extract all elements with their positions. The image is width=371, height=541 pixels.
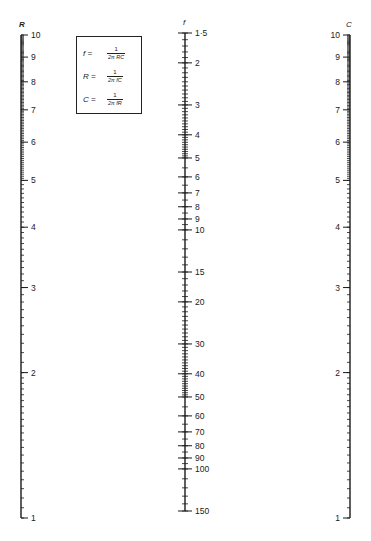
formula-c: C = 1 2π fR [83, 92, 123, 107]
f-scale-label: 80 [195, 441, 205, 451]
f-scale-label: 90 [195, 453, 205, 463]
c-scale-title: C [346, 20, 352, 29]
numerator: 1 [114, 46, 117, 53]
r-scale-label: 9 [31, 52, 36, 62]
f-scale-label: 100 [195, 464, 209, 474]
r-scale-title: R [19, 20, 25, 29]
f-scale-title: f [183, 18, 186, 27]
formula-r: R = 1 2π fC [83, 69, 123, 84]
f-scale-label: 70 [195, 427, 205, 437]
c-scale-label: 10 [331, 30, 341, 40]
f-scale-label: 3 [195, 100, 200, 110]
c-scale-label: 6 [335, 137, 340, 147]
c-scale-label: 2 [335, 368, 340, 378]
r-scale: R12345678910 [19, 20, 41, 523]
f-scale-label: 8 [195, 202, 200, 212]
c-scale-label: 3 [335, 283, 340, 293]
r-scale-label: 5 [31, 175, 36, 185]
f-scale-label: 4 [195, 130, 200, 140]
c-scale-label: 8 [335, 77, 340, 87]
fraction: 1 2π fC [107, 69, 123, 84]
formula-f: f = 1 2π RC [83, 46, 125, 61]
denominator: 2π fC [107, 76, 123, 84]
formula-lhs: C = [83, 95, 103, 104]
denominator: 2π fR [107, 99, 123, 107]
formula-box: f = 1 2π RC R = 1 2π fC C = 1 2π fR [76, 36, 142, 114]
fraction: 1 2π fR [107, 92, 123, 107]
f-scale-label: 30 [195, 339, 205, 349]
r-scale-label: 3 [31, 283, 36, 293]
denominator: 2π RC [107, 53, 125, 61]
f-scale-label: 50 [195, 392, 205, 402]
fraction: 1 2π RC [107, 46, 125, 61]
c-scale: C12345678910 [331, 20, 352, 523]
numerator: 1 [113, 92, 116, 99]
f-scale-label: 10 [195, 225, 205, 235]
f-scale-label: 150 [195, 506, 209, 516]
f-scale-label: 40 [195, 369, 205, 379]
r-scale-label: 10 [31, 30, 41, 40]
r-scale-label: 4 [31, 222, 36, 232]
f-scale-label: 5 [195, 153, 200, 163]
c-scale-label: 9 [335, 52, 340, 62]
c-scale-label: 1 [335, 513, 340, 523]
r-scale-label: 2 [31, 368, 36, 378]
f-scale-label: 6 [195, 172, 200, 182]
c-scale-label: 4 [335, 222, 340, 232]
r-scale-label: 8 [31, 77, 36, 87]
f-scale-label: 2 [195, 58, 200, 68]
nomogram-canvas: R12345678910 f1·523456789101520304050607… [0, 0, 371, 541]
r-scale-label: 7 [31, 105, 36, 115]
f-scale-label: 9 [195, 214, 200, 224]
formula-lhs: R = [83, 72, 103, 81]
f-scale-label: 1·5 [195, 28, 208, 38]
numerator: 1 [113, 69, 116, 76]
r-scale-label: 1 [31, 513, 36, 523]
f-scale-label: 7 [195, 188, 200, 198]
f-scale: f1·52345678910152030405060708090100150 [178, 18, 209, 516]
r-scale-label: 6 [31, 137, 36, 147]
f-scale-label: 20 [195, 297, 205, 307]
formula-lhs: f = [83, 49, 103, 58]
c-scale-label: 5 [335, 175, 340, 185]
f-scale-label: 15 [195, 267, 205, 277]
f-scale-label: 60 [195, 411, 205, 421]
c-scale-label: 7 [335, 105, 340, 115]
